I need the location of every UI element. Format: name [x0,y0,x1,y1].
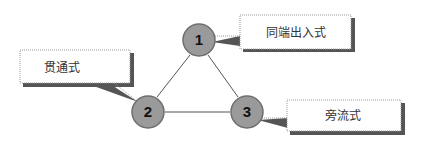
callout-2-text: 贯通式 [44,61,80,75]
callout-2: 贯通式 [20,50,138,102]
edge-1-3 [208,55,238,97]
callout-1-text: 同端出入式 [266,26,326,40]
node-3: 3 [231,96,263,128]
node-2: 2 [132,96,164,128]
callout-3-text: 旁流式 [325,108,361,123]
edge-1-2 [157,55,190,97]
callout-3: 旁流式 [258,100,405,135]
triangle-connection-diagram: 同端出入式 贯通式 旁流式 1 2 3 [0,0,421,144]
node-1: 1 [183,24,215,56]
callout-1: 同端出入式 [212,15,355,52]
node-2-label: 2 [144,103,152,120]
node-1-label: 1 [195,31,203,48]
node-3-label: 3 [243,103,251,120]
